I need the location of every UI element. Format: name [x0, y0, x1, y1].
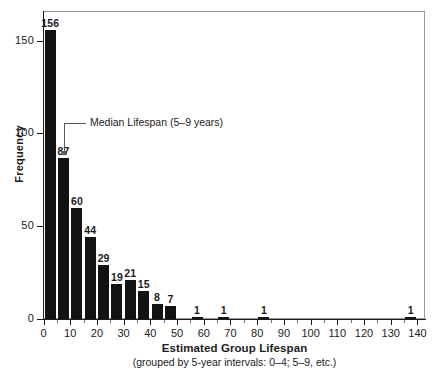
x-axis-tick	[177, 320, 178, 325]
bar-value-label: 1	[261, 304, 267, 316]
bar-value-label: 1	[408, 304, 414, 316]
x-axis-tick	[204, 320, 205, 325]
bar-value-label: 19	[111, 271, 123, 283]
histogram-bar	[152, 304, 163, 319]
y-axis-tick	[37, 133, 43, 134]
x-axis-tick-label: 100	[301, 327, 319, 339]
x-axis-minor-tick	[110, 320, 111, 323]
x-axis-tick-label: 120	[355, 327, 373, 339]
x-axis-minor-tick	[377, 320, 378, 323]
x-axis-minor-tick	[244, 320, 245, 323]
x-axis-tick	[124, 320, 125, 325]
bar-value-label: 44	[84, 224, 96, 236]
x-axis-minor-tick	[297, 320, 298, 323]
y-axis-tick-label: 0	[28, 312, 34, 324]
histogram-bar	[165, 306, 176, 319]
x-axis-tick-label: 70	[224, 327, 236, 339]
x-axis-minor-tick	[351, 320, 352, 323]
annotation-label: Median Lifespan (5–9 years)	[90, 116, 223, 128]
histogram-bar	[111, 284, 122, 319]
x-axis-tick-label: 130	[382, 327, 400, 339]
x-axis-minor-tick	[324, 320, 325, 323]
bar-value-label: 29	[98, 252, 110, 264]
x-axis-minor-tick	[404, 320, 405, 323]
x-axis-tick	[284, 320, 285, 325]
x-axis-minor-tick	[271, 320, 272, 323]
x-axis-tick-label: 140	[408, 327, 426, 339]
x-axis-minor-tick	[190, 320, 191, 323]
annotation-arrowhead-icon	[61, 151, 67, 156]
x-axis-tick-label: 20	[91, 327, 103, 339]
histogram-bar	[405, 317, 416, 319]
x-axis-tick	[150, 320, 151, 325]
x-axis-tick-label: 30	[118, 327, 130, 339]
x-axis-subtitle: (grouped by 5-year intervals: 0–4; 5–9, …	[43, 356, 426, 368]
x-axis-minor-tick	[57, 320, 58, 323]
x-axis-minor-tick	[164, 320, 165, 323]
x-axis-tick	[70, 320, 71, 325]
x-axis-minor-tick	[217, 320, 218, 323]
x-axis-tick-label: 0	[40, 327, 46, 339]
histogram-bar	[45, 30, 56, 319]
histogram-bar	[192, 317, 203, 319]
x-axis-minor-tick	[137, 320, 138, 323]
x-axis-tick-label: 50	[171, 327, 183, 339]
histogram-bar	[71, 208, 82, 319]
x-axis-tick-label: 10	[64, 327, 76, 339]
x-axis-tick-label: 40	[144, 327, 156, 339]
histogram-bar	[85, 237, 96, 319]
x-axis-tick-label: 110	[329, 327, 347, 339]
annotation-leader-vertical	[64, 123, 65, 152]
bar-value-label: 8	[154, 291, 160, 303]
histogram-figure: 050100150 010203040506070809010011012013…	[0, 0, 438, 374]
histogram-bar	[138, 291, 149, 319]
x-axis-tick	[257, 320, 258, 325]
x-axis-tick-label: 80	[251, 327, 263, 339]
y-axis-tick	[37, 41, 43, 42]
x-axis-tick	[391, 320, 392, 325]
bar-value-label: 21	[124, 267, 136, 279]
x-axis-line	[43, 319, 426, 320]
y-axis-tick	[37, 226, 43, 227]
x-axis-tick	[311, 320, 312, 325]
bar-value-label: 156	[41, 17, 59, 29]
bar-value-label: 15	[138, 278, 150, 290]
x-axis-tick	[337, 320, 338, 325]
histogram-bar	[125, 280, 136, 319]
x-axis-tick	[97, 320, 98, 325]
x-axis-tick	[44, 320, 45, 325]
x-axis-title: Estimated Group Lifespan	[43, 342, 426, 354]
x-axis-tick	[417, 320, 418, 325]
y-axis-tick-label: 150	[15, 34, 34, 46]
y-axis-title: Frequency	[13, 109, 25, 199]
bar-value-label: 1	[194, 304, 200, 316]
x-axis-tick	[364, 320, 365, 325]
bar-value-label: 60	[71, 195, 83, 207]
x-axis-tick	[230, 320, 231, 325]
histogram-bar	[58, 158, 69, 319]
histogram-bar	[258, 317, 269, 319]
bar-value-label: 1	[221, 304, 227, 316]
x-axis-tick-label: 90	[278, 327, 290, 339]
x-axis-tick-label: 60	[198, 327, 210, 339]
annotation-leader-horizontal	[64, 123, 86, 124]
histogram-bar	[98, 265, 109, 319]
y-axis-tick	[37, 319, 43, 320]
histogram-bar	[218, 317, 229, 319]
bar-value-label: 7	[167, 293, 173, 305]
x-axis-minor-tick	[84, 320, 85, 323]
y-axis-tick-label: 50	[21, 219, 34, 231]
